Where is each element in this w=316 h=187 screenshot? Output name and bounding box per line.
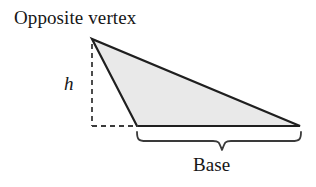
height-label: h	[64, 74, 74, 93]
triangle-shape	[92, 39, 300, 126]
geometry-figure: Opposite vertex h Base	[0, 0, 316, 187]
base-label: Base	[193, 155, 230, 174]
triangle-diagram-canvas	[0, 0, 316, 187]
base-brace	[137, 132, 301, 150]
opposite-vertex-label: Opposite vertex	[14, 8, 136, 27]
